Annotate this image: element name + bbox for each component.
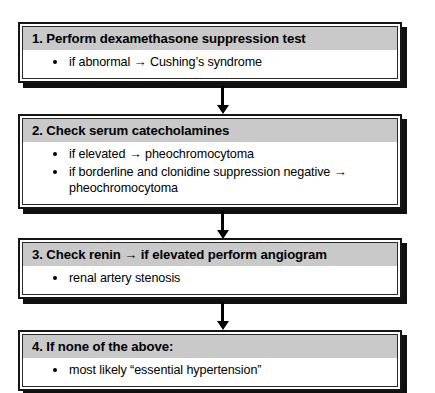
connector-shaft <box>221 302 224 321</box>
bullet-dot-icon <box>53 60 57 64</box>
step-2-bullet-list: if elevated → pheochromocytoma if border… <box>31 146 389 197</box>
bullet-dot-icon <box>53 276 57 280</box>
flowchart-step-4: 4. If none of the above: most likely “es… <box>18 330 402 391</box>
inline-arrow-icon: → <box>134 54 147 69</box>
list-item: renal artery stenosis <box>31 270 389 287</box>
step-4-body: most likely “essential hypertension” <box>23 358 397 386</box>
connector-shaft <box>221 86 224 105</box>
step-3-frame: 3. Check renin → if elevated perform ang… <box>22 242 398 295</box>
inline-arrow-icon: → <box>124 247 137 262</box>
list-item: most likely “essential hypertension” <box>31 362 389 379</box>
step-4-bullet-list: most likely “essential hypertension” <box>31 362 389 379</box>
arrow-head-icon <box>217 321 229 330</box>
step-2-body: if elevated → pheochromocytoma if border… <box>23 142 397 204</box>
step-3-bullet-list: renal artery stenosis <box>31 270 389 287</box>
bullet-dot-icon <box>53 368 57 372</box>
connector-step2-step3 <box>216 211 229 239</box>
step-1-bullet-list: if abnormal → Cushing’s syndrome <box>31 54 389 71</box>
list-item: if abnormal → Cushing’s syndrome <box>31 54 389 71</box>
bullet-text: if borderline and clonidine suppression … <box>69 165 347 196</box>
step-4-header: 4. If none of the above: <box>23 335 397 358</box>
inline-arrow-icon: → <box>334 164 347 179</box>
connector-step3-step4 <box>216 302 229 330</box>
arrow-head-icon <box>217 105 229 114</box>
bullet-text: if abnormal → Cushing’s syndrome <box>69 55 262 69</box>
connector-step1-step2 <box>216 86 229 114</box>
flowchart-step-3: 3. Check renin → if elevated perform ang… <box>18 238 402 299</box>
bullet-dot-icon <box>53 170 57 174</box>
flowchart-diagram: 1. Perform dexamethasone suppression tes… <box>0 0 435 393</box>
step-2-frame: 2. Check serum catecholamines if elevate… <box>22 118 398 205</box>
step-3-header: 3. Check renin → if elevated perform ang… <box>23 243 397 266</box>
step-3-body: renal artery stenosis <box>23 266 397 294</box>
bullet-dot-icon <box>53 152 57 156</box>
step-4-frame: 4. If none of the above: most likely “es… <box>22 334 398 387</box>
step-1-frame: 1. Perform dexamethasone suppression tes… <box>22 26 398 79</box>
flowchart-step-2: 2. Check serum catecholamines if elevate… <box>18 114 402 209</box>
bullet-text: renal artery stenosis <box>69 271 180 285</box>
list-item: if elevated → pheochromocytoma <box>31 146 389 163</box>
bullet-text: most likely “essential hypertension” <box>69 363 261 377</box>
step-2-header: 2. Check serum catecholamines <box>23 119 397 142</box>
flowchart-step-1: 1. Perform dexamethasone suppression tes… <box>18 22 402 83</box>
list-item: if borderline and clonidine suppression … <box>31 164 389 197</box>
inline-arrow-icon: → <box>129 146 142 161</box>
connector-shaft <box>221 211 224 230</box>
step-1-body: if abnormal → Cushing’s syndrome <box>23 50 397 78</box>
bullet-text: if elevated → pheochromocytoma <box>69 147 254 161</box>
step-1-header: 1. Perform dexamethasone suppression tes… <box>23 27 397 50</box>
